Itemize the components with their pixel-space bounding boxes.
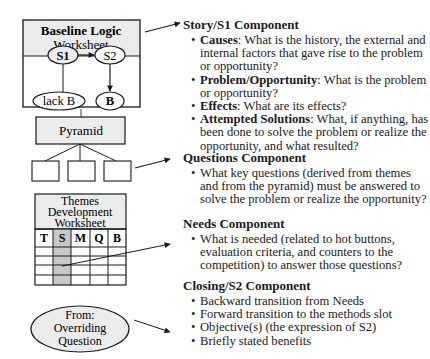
node-s2-label: S2 <box>103 49 116 63</box>
list-item: Problem/Opportunity: What is the problem… <box>191 74 430 100</box>
bullet-list: Causes: What is the history, the externa… <box>183 34 430 153</box>
overriding-line2: Overriding <box>54 321 107 335</box>
section-questions: Questions Component What key questions (… <box>183 150 430 207</box>
themes-title-line3: Worksheet <box>54 216 106 230</box>
node-lack-b-label: lack B <box>43 94 75 108</box>
list-item: Attempted Solutions: What, if anything, … <box>191 113 430 153</box>
pyramid-child-box-3 <box>104 161 131 181</box>
node-s2: S2 <box>95 46 125 64</box>
themes-development-worksheet: Themes Development Worksheet T S M Q B <box>35 194 126 285</box>
list-item: What key questions (derived from themes … <box>191 167 430 207</box>
baseline-logic-worksheet: Baseline Logic Worksheet S1 S2 lack B B <box>23 20 140 110</box>
section-closing-s2: Closing/S2 Component Backward transition… <box>183 278 430 348</box>
section-title: Story/S1 Component <box>183 17 430 32</box>
list-item: What is needed (related to hot buttons, … <box>191 233 430 273</box>
column-header-q: Q <box>94 231 103 245</box>
overriding-line1: From: <box>65 308 94 322</box>
bullet-list: Backward transition from Needs Forward t… <box>183 295 430 348</box>
section-title: Questions Component <box>183 150 430 165</box>
section-story-s1: Story/S1 Component Causes: What is the h… <box>183 17 430 153</box>
overriding-line3: Question <box>58 334 101 348</box>
baseline-title-line1: Baseline Logic <box>41 23 122 38</box>
bullet-list: What is needed (related to hot buttons, … <box>183 233 430 273</box>
column-header-s: S <box>59 231 66 245</box>
node-s1-label: S1 <box>56 49 69 63</box>
arrow-to-story <box>145 23 180 32</box>
pyramid-child-box-1 <box>32 161 59 181</box>
arrow-to-questions <box>135 159 170 168</box>
overriding-question-node: From: Overriding Question <box>31 306 129 352</box>
pyramid-label: Pyramid <box>59 123 104 138</box>
column-header-m: M <box>75 231 86 245</box>
list-item: Briefly stated benefits <box>191 335 430 348</box>
bullet-list: What key questions (derived from themes … <box>183 167 430 207</box>
pyramid-child-box-2 <box>68 161 95 181</box>
node-b: B <box>96 92 124 110</box>
node-b-label: B <box>106 94 114 108</box>
section-needs: Needs Component What is needed (related … <box>183 216 430 273</box>
pyramid-box: Pyramid <box>32 109 131 181</box>
arrow-to-closing <box>134 320 170 332</box>
section-title: Needs Component <box>183 216 430 231</box>
node-s1: S1 <box>48 46 78 64</box>
list-item: Causes: What is the history, the externa… <box>191 34 430 74</box>
node-lack-b: lack B <box>33 92 85 110</box>
column-header-t: T <box>40 231 48 245</box>
column-header-b: B <box>113 231 121 245</box>
section-title: Closing/S2 Component <box>183 278 430 293</box>
